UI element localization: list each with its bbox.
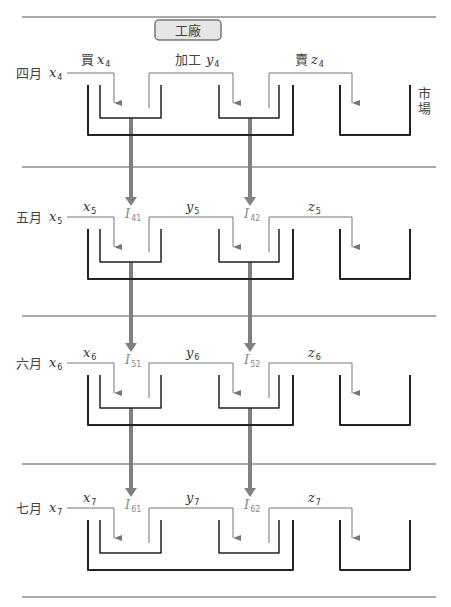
month-row-5: 五月x5x5y5z5I41I42 [16,199,410,279]
buy-flow-arrow [67,508,114,538]
factory-title-box: 工廠 [155,20,221,40]
raw-storage-bracket [100,85,161,118]
buy-var-x: x7 [83,490,96,507]
inventory-raw-label: I41 [124,206,141,223]
product-storage-bracket [219,85,279,118]
inventory-raw-label: I51 [124,352,141,369]
process-var-y: y7 [185,490,199,507]
month-row-7: 七月x7x7y7z7I61I62 [16,490,410,570]
month-row-6: 六月x6x6y6z6I51I52 [16,345,410,425]
buy-flow-arrow [67,73,114,103]
buy-flow-arrow [67,217,114,247]
month-input-x: x7 [49,500,62,517]
factory-outer-bracket [88,229,293,279]
inventory-product-label: I42 [243,206,260,223]
month-input-x: x5 [49,209,62,226]
buy-var-x: x4 [97,52,110,69]
buy-var-x: x5 [83,199,96,216]
market-label: 市 場 [418,86,431,116]
production-flow-diagram: 四月x4買x4加工y4賣z4五月x5x5y5z5I41I42六月x6x6y6z6… [0,0,451,607]
thick-arrow-head-icon [125,197,137,206]
factory-outer-bracket [88,520,293,570]
product-storage-bracket [219,520,279,553]
month-label: 六月 [16,356,42,371]
month-label: 七月 [16,501,42,516]
raw-storage-bracket [100,229,161,262]
market-bracket [340,85,410,135]
inventory-carryover-arrows [125,118,256,497]
month-label: 五月 [16,210,42,225]
market-bracket [340,375,410,425]
market-bracket [340,229,410,279]
product-storage-bracket [219,375,279,408]
thick-arrow-head-icon [244,343,256,352]
process-var-y: y5 [185,199,199,216]
month-input-x: x6 [49,355,62,372]
thick-arrow-head-icon [244,197,256,206]
buy-var-x: x6 [83,345,96,362]
sell-var-z: z6 [307,345,321,362]
inventory-raw-label: I61 [124,497,141,514]
thick-arrow-head-icon [125,488,137,497]
factory-outer-bracket [88,375,293,425]
thick-arrow-head-icon [244,488,256,497]
buy-flow-arrow [67,363,114,393]
thick-arrow-head-icon [125,343,137,352]
market-bracket [340,520,410,570]
buy-label: 買 [81,52,94,67]
process-var-y: y6 [185,345,199,362]
month-rows: 四月x4買x4加工y4賣z4五月x5x5y5z5I41I42六月x6x6y6z6… [16,52,410,570]
process-var-y: y4 [205,52,219,69]
market-label-char-1: 市 [418,86,431,101]
month-label: 四月 [16,66,42,81]
month-row-4: 四月x4買x4加工y4賣z4 [16,52,410,135]
sell-var-z: z7 [307,490,321,507]
month-input-x: x4 [49,65,62,82]
month-separators [22,17,436,597]
product-storage-bracket [219,229,279,262]
sell-label: 賣 [295,52,308,67]
raw-storage-bracket [100,375,161,408]
sell-var-z: z5 [307,199,321,216]
factory-title: 工廠 [175,23,201,38]
process-label: 加工 [175,52,201,67]
raw-storage-bracket [100,520,161,553]
inventory-product-label: I62 [243,497,260,514]
market-label-char-2: 場 [418,101,431,116]
sell-var-z: z4 [310,52,324,69]
inventory-product-label: I52 [243,352,260,369]
factory-outer-bracket [88,85,293,135]
